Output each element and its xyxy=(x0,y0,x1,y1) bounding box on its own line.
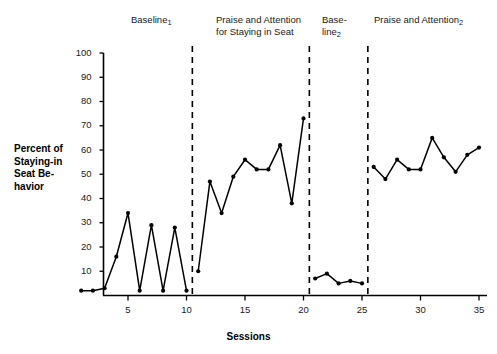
chart-figure: Baseline1 Praise and Attention for Stayi… xyxy=(0,0,497,354)
axis-lines xyxy=(103,53,487,296)
data-point xyxy=(220,211,224,215)
data-point xyxy=(418,167,422,171)
data-point xyxy=(231,175,235,179)
data-point xyxy=(430,136,434,140)
data-point-markers xyxy=(79,116,481,292)
data-point xyxy=(103,286,107,290)
data-point xyxy=(290,201,294,205)
data-point xyxy=(208,179,212,183)
data-point xyxy=(313,276,317,280)
plot-area xyxy=(0,0,497,354)
data-point xyxy=(126,211,130,215)
phase-change-lines xyxy=(192,46,368,296)
data-point xyxy=(477,145,481,149)
data-point xyxy=(372,165,376,169)
series-line-phase-4 xyxy=(374,138,479,179)
data-point xyxy=(243,158,247,162)
data-point xyxy=(301,116,305,120)
data-point xyxy=(442,155,446,159)
data-point xyxy=(173,226,177,230)
data-point xyxy=(161,289,165,293)
data-point xyxy=(79,289,83,293)
data-point xyxy=(138,289,142,293)
data-point xyxy=(454,170,458,174)
data-point xyxy=(91,289,95,293)
data-point xyxy=(255,167,259,171)
data-point xyxy=(395,158,399,162)
data-point xyxy=(196,269,200,273)
data-point xyxy=(266,167,270,171)
series-line-phase-1 xyxy=(81,213,186,291)
data-point xyxy=(184,289,188,293)
data-point xyxy=(465,153,469,157)
data-point xyxy=(278,143,282,147)
series-line-phase-2 xyxy=(198,118,303,271)
data-point xyxy=(383,177,387,181)
data-point xyxy=(360,281,364,285)
data-point xyxy=(114,255,118,259)
data-point xyxy=(325,272,329,276)
data-point xyxy=(337,281,341,285)
data-point xyxy=(407,167,411,171)
data-point xyxy=(348,279,352,283)
data-point xyxy=(149,223,153,227)
